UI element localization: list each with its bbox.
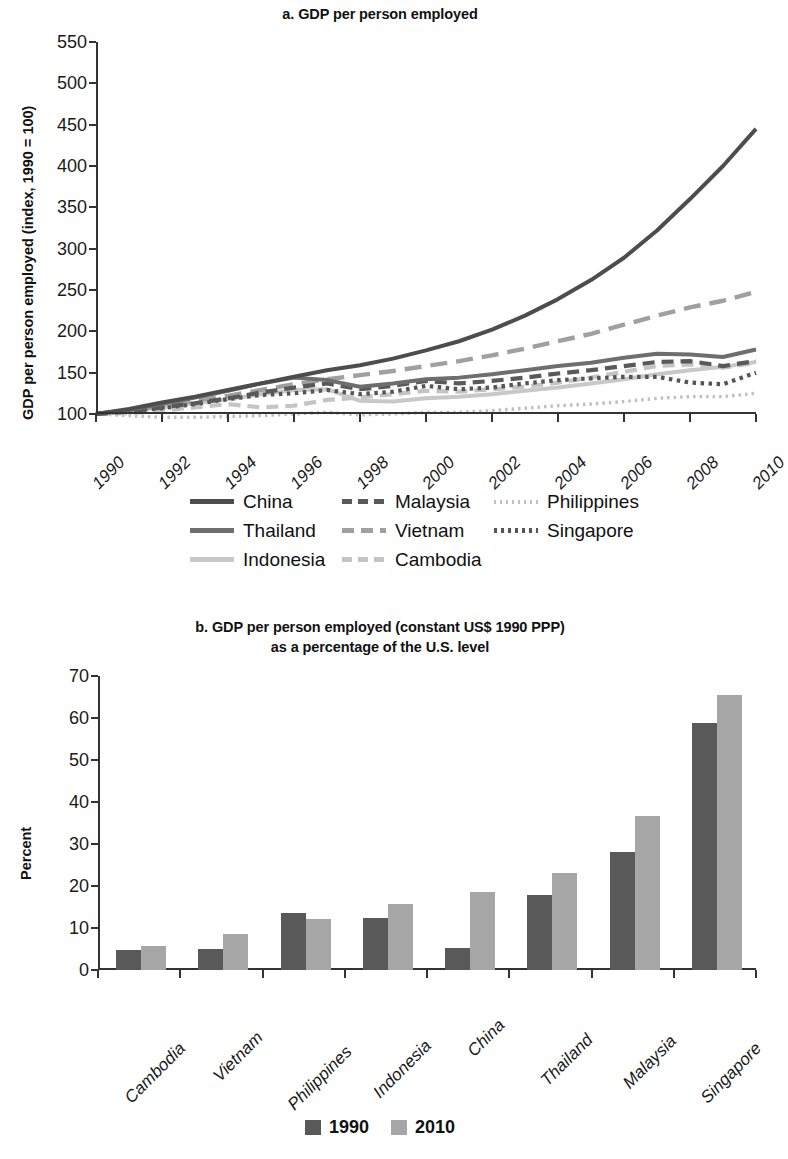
legend-label: Philippines [547,491,639,513]
legend-swatch-indonesia-icon [190,557,234,562]
legend-swatch-malaysia-icon [342,499,386,504]
panel-a-series-china [96,129,756,414]
panel-b-x-tick-label: Malaysia [619,1031,681,1093]
panel-a-y-tick-mark [89,165,96,167]
panel-b-x-tick-mark [755,970,757,978]
panel-b-x-tick-mark [262,970,264,978]
panel-a-series-lines [96,42,756,414]
legend-item-china[interactable]: China [190,491,342,513]
legend-b-item-2010[interactable]: 2010 [391,1117,455,1138]
panel-b-bars [98,676,756,970]
panel-b-x-tick-label: Cambodia [121,1039,190,1108]
panel-b-y-tick-mark [91,927,98,929]
panel-b-title: b. GDP per person employed (constant US$… [0,618,760,657]
panel-b-x-tick-mark [426,970,428,978]
panel-b-y-tick-label: 30 [69,834,98,855]
panel-b-legend: 19902010 [0,1117,760,1138]
legend-label: Malaysia [395,491,470,513]
panel-b-y-tick-label: 40 [69,792,98,813]
panel-b-y-tick-mark [91,759,98,761]
panel-a-x-tick-label: 2010 [748,453,788,494]
panel-b-y-tick-label: 20 [69,876,98,897]
legend-b-label: 1990 [329,1117,369,1138]
bar-thailand-2010 [552,873,577,970]
panel-a-series-cambodia [96,363,756,414]
bar-philippines-2010 [306,919,331,970]
legend-item-indonesia[interactable]: Indonesia [190,549,342,571]
legend-b-label: 2010 [415,1117,455,1138]
panel-a-x-tick-mark [689,414,691,422]
panel-b-y-tick-label: 60 [69,708,98,729]
panel-a-y-axis [96,42,98,414]
panel-b-y-tick-mark [91,843,98,845]
panel-a-x-tick-mark [161,414,163,422]
panel-b-y-tick-label: 70 [69,666,98,687]
panel-b-x-tick-mark [673,970,675,978]
panel-a-x-tick-mark [623,414,625,422]
bar-vietnam-1990 [198,949,223,970]
panel-a-x-tick-label: 1990 [88,453,129,494]
bar-cambodia-2010 [141,946,166,970]
legend-swatch-vietnam-icon [342,528,386,533]
panel-a-y-tick-mark [89,330,96,332]
bar-cambodia-1990 [116,950,141,970]
legend-label: China [243,491,293,513]
legend-item-malaysia[interactable]: Malaysia [342,491,494,513]
bar-malaysia-1990 [610,852,635,970]
panel-b-x-tick-label: Singapore [697,1039,766,1108]
panel-a-line-chart: a. GDP per person employed GDP per perso… [0,0,760,600]
panel-a-x-tick-mark [293,414,295,422]
panel-b-x-tick-mark [179,970,181,978]
panel-b-y-axis [98,676,100,970]
legend-item-vietnam[interactable]: Vietnam [342,520,494,542]
legend-label: Thailand [243,520,316,542]
panel-b-y-tick-mark [91,717,98,719]
panel-a-y-tick-mark [89,289,96,291]
panel-a-legend: ChinaMalaysiaPhilippinesThailandVietnamS… [190,487,710,574]
legend-item-thailand[interactable]: Thailand [190,520,342,542]
panel-b-x-tick-mark [344,970,346,978]
legend-label: Indonesia [243,549,325,571]
bar-singapore-1990 [692,723,717,970]
legend-swatch-thailand-icon [190,528,234,533]
panel-b-y-tick-label: 0 [79,960,98,981]
panel-b-x-tick-label: Indonesia [369,1036,435,1102]
panel-a-x-tick-mark [95,414,97,422]
panel-b-plot-area: 010203040506070 CambodiaVietnamPhilippin… [98,676,756,970]
panel-a-y-tick-mark [89,41,96,43]
panel-b-x-tick-mark [508,970,510,978]
bar-malaysia-2010 [635,816,660,970]
panel-b-y-tick-label: 10 [69,918,98,939]
panel-b-x-tick-label: Philippines [284,1042,356,1114]
legend-b-swatch-2010-icon [391,1120,407,1135]
legend-swatch-singapore-icon [494,528,538,533]
panel-a-x-tick-mark [425,414,427,422]
panel-a-y-tick-mark [89,82,96,84]
panel-b-x-tick-label: Thailand [537,1030,597,1090]
bar-singapore-2010 [717,695,742,970]
bar-thailand-1990 [527,895,552,970]
bar-philippines-1990 [281,913,306,970]
panel-b-y-tick-mark [91,969,98,971]
legend-label: Singapore [547,520,634,542]
panel-a-title: a. GDP per person employed [0,5,760,25]
bar-indonesia-2010 [388,904,413,970]
panel-a-y-tick-mark [89,124,96,126]
legend-swatch-cambodia-icon [342,557,386,562]
legend-label: Cambodia [395,549,482,571]
panel-a-x-tick-mark [227,414,229,422]
panel-a-y-axis-label: GDP per person employed (index, 1990 = 1… [20,106,36,420]
legend-b-swatch-1990-icon [305,1120,321,1135]
legend-item-singapore[interactable]: Singapore [494,520,669,542]
bar-indonesia-1990 [363,918,388,970]
panel-a-x-tick-mark [755,414,757,422]
legend-item-cambodia[interactable]: Cambodia [342,549,494,571]
panel-a-y-tick-mark [89,248,96,250]
bar-vietnam-2010 [223,934,248,970]
legend-swatch-philippines-icon [494,500,538,504]
panel-b-title-line2: as a percentage of the U.S. level [0,638,760,658]
legend-b-item-1990[interactable]: 1990 [305,1117,369,1138]
legend-item-philippines[interactable]: Philippines [494,491,669,513]
panel-a-x-tick-mark [359,414,361,422]
legend-swatch-china-icon [190,499,234,504]
